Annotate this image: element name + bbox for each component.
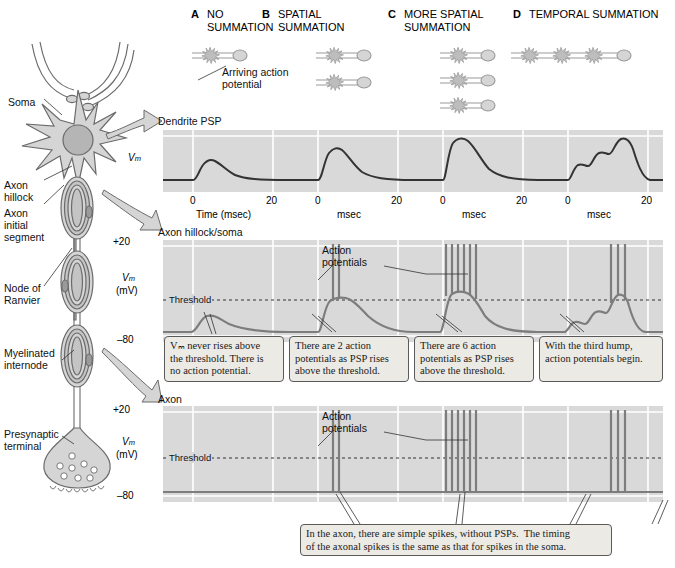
- neuron-label-axon-initial-segment: Axon initial segment: [4, 207, 44, 243]
- neuron-label-node-of-ranvier: Node of Ranvier: [4, 282, 41, 306]
- plot-dendrite-psp-a: [163, 130, 288, 192]
- panel-title-b: SPATIAL SUMMATION: [278, 8, 344, 33]
- arriving-action-potential-label: Arriving action potential: [222, 66, 289, 90]
- xtick-twenty-b: 20: [391, 195, 402, 206]
- xtick-zero-a: 0: [190, 195, 196, 206]
- neuron-label-presynaptic-terminal: Presynaptic terminal: [4, 428, 59, 452]
- neuron-label-myelinated-internode: Myelinated internode: [4, 347, 55, 371]
- panel-letter-c: C: [388, 8, 396, 20]
- vm-units-row3: (mV): [116, 449, 138, 460]
- panel-title-d: TEMPORAL SUMMATION: [529, 8, 659, 21]
- xaxis-label-c: msec: [462, 209, 486, 220]
- xtick-twenty-a: 20: [266, 195, 277, 206]
- callout-a: Vₘ never rises above the threshold. Ther…: [164, 336, 284, 382]
- xaxis-label-b: msec: [337, 209, 361, 220]
- callout-b: There are 2 action potentials as PSP ris…: [289, 336, 409, 382]
- plot-dendrite-psp-b: [288, 130, 413, 192]
- xaxis-label-a: Time (msec): [196, 209, 251, 220]
- panel-letter-b: B: [262, 8, 270, 20]
- plot-axon-d: [538, 406, 663, 502]
- plot-dendrite-psp-c: [413, 130, 538, 192]
- ytick-top-row3: +20: [113, 404, 130, 415]
- vm-label-row1: Vm: [128, 152, 141, 164]
- neuron-label-axon-hillock: Axon hillock: [4, 179, 33, 203]
- callout-leaders-row2: [160, 300, 675, 336]
- action-potentials-leader-row3: [300, 418, 500, 454]
- axon-callout-leaders: [280, 490, 675, 528]
- vm-units-row2: (mV): [116, 285, 138, 296]
- ytick-bottom-row2: –80: [117, 334, 134, 345]
- vm-label-row2: Vm: [122, 272, 135, 284]
- row-label-axon-hillock-soma: Axon hillock/soma: [158, 226, 243, 238]
- plot-dendrite-psp-d: [538, 130, 663, 192]
- xtick-twenty-d: 20: [641, 195, 652, 206]
- xtick-zero-c: 0: [440, 195, 446, 206]
- xtick-twenty-c: 20: [516, 195, 527, 206]
- pointer-arrow-dendrite: [104, 108, 164, 142]
- action-potentials-leader-row2: [300, 252, 480, 288]
- callout-d: With the third hump, action potentials b…: [539, 336, 663, 382]
- ytick-top-row2: +20: [113, 236, 130, 247]
- xaxis-label-d: msec: [587, 209, 611, 220]
- row-label-dendrite-psp: Dendrite PSP: [158, 115, 222, 127]
- panel-title-c: MORE SPATIAL SUMMATION: [404, 8, 484, 33]
- vm-label-row3: Vm: [122, 436, 135, 448]
- row-label-axon: Axon: [158, 393, 182, 405]
- synapse-icon-group-c: [434, 42, 504, 124]
- threshold-label-row3-a: Threshold: [168, 452, 212, 463]
- xtick-zero-b: 0: [315, 195, 321, 206]
- synapse-icon-group-b: [310, 42, 380, 100]
- neuron-label-soma: Soma: [8, 96, 35, 108]
- pointer-arrow-hillock: [100, 190, 164, 236]
- ytick-bottom-row3: –80: [117, 490, 134, 501]
- panel-letter-d: D: [513, 8, 521, 20]
- synapse-icon-group-d: [505, 42, 640, 72]
- xtick-zero-d: 0: [565, 195, 571, 206]
- axon-callout: In the axon, there are simple spikes, wi…: [300, 524, 612, 556]
- panel-letter-a: A: [191, 8, 199, 20]
- callout-c: There are 6 action potentials as PSP ris…: [414, 336, 534, 382]
- pointer-arrow-axon: [100, 348, 164, 408]
